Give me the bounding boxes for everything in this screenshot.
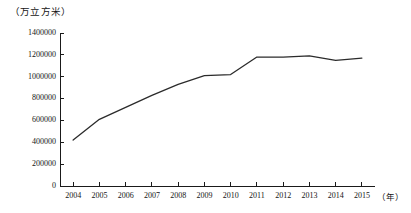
y-axis-tick-label: 600000 — [32, 115, 56, 124]
chart-canvas: 0200000400000600000800000100000012000001… — [0, 0, 411, 213]
x-axis-tick-label: 2011 — [249, 191, 265, 200]
line-chart: （万立方米） （年） 02000004000006000008000001000… — [0, 0, 411, 213]
x-axis-tick-label: 2015 — [354, 191, 370, 200]
x-axis-tick-label: 2009 — [196, 191, 212, 200]
y-axis-tick-marks — [60, 33, 64, 164]
x-axis-tick-label: 2007 — [144, 191, 160, 200]
y-axis-tick-label: 1400000 — [28, 28, 56, 37]
data-series-line — [73, 56, 362, 140]
x-axis-tick-label: 2014 — [328, 191, 344, 200]
y-axis-tick-label: 0 — [52, 181, 56, 190]
x-axis-tick-label: 2010 — [223, 191, 239, 200]
y-axis-tick-labels: 0200000400000600000800000100000012000001… — [28, 28, 56, 190]
y-axis-tick-label: 1000000 — [28, 72, 56, 81]
x-axis-tick-label: 2005 — [91, 191, 107, 200]
x-axis-tick-labels: 2004200520062007200820092010201120122013… — [65, 191, 370, 200]
x-axis-tick-label: 2006 — [118, 191, 134, 200]
x-axis-tick-marks — [73, 182, 362, 186]
y-axis-tick-label: 1200000 — [28, 50, 56, 59]
x-axis-tick-label: 2013 — [301, 191, 317, 200]
x-axis-tick-label: 2004 — [65, 191, 81, 200]
x-axis-tick-label: 2008 — [170, 191, 186, 200]
y-axis-tick-label: 400000 — [32, 137, 56, 146]
x-axis-tick-label: 2012 — [275, 191, 291, 200]
y-axis-tick-label: 200000 — [32, 159, 56, 168]
y-axis-tick-label: 800000 — [32, 93, 56, 102]
